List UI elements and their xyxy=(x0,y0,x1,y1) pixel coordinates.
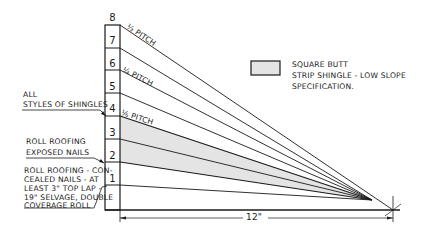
scale-number-6: 6 xyxy=(105,59,120,69)
legend-text-2: STRIP SHINGLE - LOW SLOPE xyxy=(292,71,406,80)
scale-number-8: 8 xyxy=(105,13,120,23)
legend-swatch xyxy=(251,61,280,75)
dimension-label: 12" xyxy=(246,213,262,222)
callout-roll-exposed-2: EXPOSED NAILS xyxy=(26,148,89,157)
callout-roll-exposed-1: ROLL ROOFING xyxy=(26,137,86,146)
callout-roll-concealed-3: LEAST 3" TOP LAP - xyxy=(24,184,101,193)
scale-number-2: 2 xyxy=(105,151,120,161)
callout-roll-concealed-1: ROLL ROOFING - CON- xyxy=(24,166,113,175)
scale-number-1: 1 xyxy=(105,174,120,184)
legend-text-1: SQUARE BUTT xyxy=(292,60,348,69)
scale-number-5: 5 xyxy=(105,82,120,92)
callout-all-styles-1: ALL xyxy=(23,90,37,99)
legend-text-3: SPECIFICATION. xyxy=(292,82,354,91)
scale-number-3: 3 xyxy=(105,128,120,138)
callout-all-styles-2: STYLES OF SHINGLES xyxy=(23,100,108,109)
callout-roll-concealed-2: CEALED NAILS - AT xyxy=(24,175,99,184)
scale-number-7: 7 xyxy=(105,36,120,46)
callout-roll-concealed-5: COVERAGE ROLL xyxy=(24,201,91,210)
pitch-lines xyxy=(120,25,393,210)
